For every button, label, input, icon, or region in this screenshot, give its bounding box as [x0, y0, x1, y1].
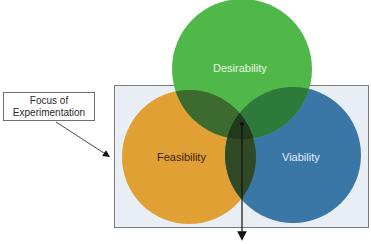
feasibility-label: Feasibility — [157, 151, 206, 163]
callout-line-1: Focus of — [30, 95, 68, 107]
callout-arrow — [56, 122, 107, 155]
desirability-label: Desirability — [213, 62, 267, 74]
focus-callout-box: Focus of Experimentation — [3, 92, 95, 121]
venn-diagram — [0, 0, 371, 244]
viability-label: Viability — [282, 151, 320, 163]
callout-line-2: Experimentation — [13, 107, 85, 119]
